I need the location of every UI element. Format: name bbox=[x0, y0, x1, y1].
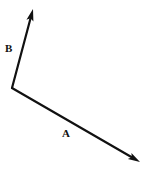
diagram-background bbox=[0, 0, 147, 170]
vector-diagram: B A bbox=[0, 0, 147, 170]
vector-b-label: B bbox=[5, 43, 12, 54]
vector-a-label: A bbox=[62, 128, 70, 139]
vector-diagram-canvas bbox=[0, 0, 147, 170]
